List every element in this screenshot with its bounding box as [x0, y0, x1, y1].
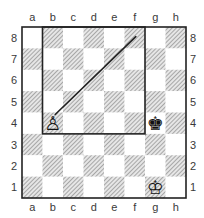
rank-label-7: 7 — [11, 53, 17, 65]
rank-labels-left: 87654321 — [11, 32, 17, 194]
square-h1 — [166, 177, 187, 199]
square-c1 — [63, 177, 84, 199]
square-c8 — [63, 27, 84, 49]
square-c3 — [63, 134, 84, 156]
rank-label-4: 4 — [11, 117, 17, 129]
black-king-icon: ♚ — [147, 112, 164, 134]
rank-label-4: 4 — [190, 117, 196, 129]
square-d2 — [84, 155, 105, 177]
file-label-c: c — [71, 201, 77, 213]
square-b2 — [43, 155, 64, 177]
rank-label-3: 3 — [190, 139, 196, 151]
file-label-h: h — [173, 201, 179, 213]
file-label-b: b — [50, 201, 56, 213]
rank-label-3: 3 — [11, 139, 17, 151]
square-f2 — [125, 155, 146, 177]
square-g3 — [145, 134, 166, 156]
file-label-a: a — [29, 11, 36, 23]
square-h8 — [166, 27, 187, 49]
square-e4 — [104, 113, 125, 135]
file-label-f: f — [133, 201, 137, 213]
square-a2 — [22, 155, 43, 177]
square-g5 — [145, 91, 166, 113]
square-f1 — [125, 177, 146, 199]
square-c7 — [63, 48, 84, 70]
square-c5 — [63, 91, 84, 113]
file-label-d: d — [91, 201, 97, 213]
square-h3 — [166, 134, 187, 156]
square-e8 — [104, 27, 125, 49]
square-d3 — [84, 134, 105, 156]
rank-labels-right: 87654321 — [190, 32, 196, 194]
square-a4 — [22, 113, 43, 135]
square-g6 — [145, 70, 166, 92]
square-b3 — [43, 134, 64, 156]
square-a3 — [22, 134, 43, 156]
square-e7 — [104, 48, 125, 70]
square-e3 — [104, 134, 125, 156]
square-e2 — [104, 155, 125, 177]
square-d7 — [84, 48, 105, 70]
square-b7 — [43, 48, 64, 70]
square-c6 — [63, 70, 84, 92]
white-pawn-icon: ♙ — [44, 112, 61, 134]
square-d1 — [84, 177, 105, 199]
square-a8 — [22, 27, 43, 49]
square-e1 — [104, 177, 125, 199]
file-label-d: d — [91, 11, 97, 23]
square-a6 — [22, 70, 43, 92]
square-f4 — [125, 113, 146, 135]
file-label-h: h — [173, 11, 179, 23]
square-h6 — [166, 70, 187, 92]
square-b8 — [43, 27, 64, 49]
file-label-g: g — [152, 201, 158, 213]
white-king-icon: ♔ — [147, 176, 164, 198]
square-f3 — [125, 134, 146, 156]
square-e5 — [104, 91, 125, 113]
file-label-c: c — [71, 11, 77, 23]
file-label-b: b — [50, 11, 56, 23]
file-label-e: e — [111, 201, 117, 213]
square-f5 — [125, 91, 146, 113]
square-h2 — [166, 155, 187, 177]
square-d6 — [84, 70, 105, 92]
square-g8 — [145, 27, 166, 49]
rank-label-8: 8 — [190, 32, 196, 44]
square-h5 — [166, 91, 187, 113]
square-c4 — [63, 113, 84, 135]
square-b1 — [43, 177, 64, 199]
square-g2 — [145, 155, 166, 177]
file-label-e: e — [111, 11, 117, 23]
file-labels-bottom: abcdefgh — [29, 201, 179, 213]
file-labels-top: abcdefgh — [29, 11, 179, 23]
square-d8 — [84, 27, 105, 49]
rank-label-2: 2 — [190, 160, 196, 172]
rank-label-7: 7 — [190, 53, 196, 65]
rank-label-6: 6 — [11, 74, 17, 86]
file-label-a: a — [29, 201, 36, 213]
square-f6 — [125, 70, 146, 92]
square-a1 — [22, 177, 43, 199]
rank-label-1: 1 — [190, 181, 196, 193]
square-h7 — [166, 48, 187, 70]
file-label-g: g — [152, 11, 158, 23]
square-b6 — [43, 70, 64, 92]
square-d5 — [84, 91, 105, 113]
square-d4 — [84, 113, 105, 135]
square-c2 — [63, 155, 84, 177]
square-f7 — [125, 48, 146, 70]
rank-label-2: 2 — [11, 160, 17, 172]
square-h4 — [166, 113, 187, 135]
rank-label-6: 6 — [190, 74, 196, 86]
square-g7 — [145, 48, 166, 70]
rank-label-1: 1 — [11, 181, 17, 193]
file-label-f: f — [133, 11, 137, 23]
chess-diagram: abcdefgh abcdefgh 87654321 87654321 ♙♚♔ — [0, 0, 204, 218]
square-a7 — [22, 48, 43, 70]
rank-label-8: 8 — [11, 32, 17, 44]
rank-label-5: 5 — [190, 96, 196, 108]
rank-label-5: 5 — [11, 96, 17, 108]
square-e6 — [104, 70, 125, 92]
square-a5 — [22, 91, 43, 113]
